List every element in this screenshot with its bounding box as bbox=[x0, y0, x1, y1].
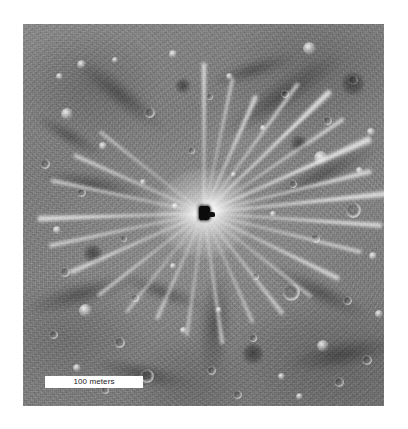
figure-page: 100 meters bbox=[0, 0, 408, 429]
lunar-surface-image: 100 meters bbox=[23, 24, 384, 406]
surface-grain-texture-secondary bbox=[23, 24, 384, 406]
scale-bar-label: 100 meters bbox=[73, 378, 114, 386]
scale-bar: 100 meters bbox=[45, 376, 143, 388]
